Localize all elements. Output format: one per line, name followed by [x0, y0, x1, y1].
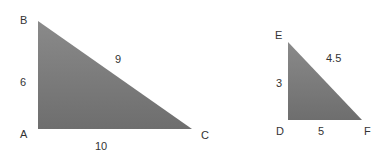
vertex-label-e: E	[275, 29, 282, 41]
vertex-label-d: D	[276, 125, 284, 137]
triangle-abc: B A C 6 9 10	[20, 14, 209, 152]
side-label-ef: 4.5	[326, 52, 341, 64]
side-label-ab: 6	[20, 76, 26, 88]
triangle-def: E D F 3 4.5 5	[275, 29, 371, 137]
triangle-abc-shape	[38, 21, 192, 129]
similar-triangles-diagram: B A C 6 9 10 E D F 3 4.5 5	[0, 0, 384, 161]
side-label-bc: 9	[115, 53, 121, 65]
triangle-def-shape	[288, 42, 362, 120]
side-label-ac: 10	[95, 140, 107, 152]
side-label-df: 5	[318, 125, 324, 137]
vertex-label-b: B	[20, 14, 27, 26]
side-label-de: 3	[276, 77, 282, 89]
vertex-label-f: F	[364, 125, 371, 137]
vertex-label-c: C	[201, 129, 209, 141]
vertex-label-a: A	[20, 128, 28, 140]
